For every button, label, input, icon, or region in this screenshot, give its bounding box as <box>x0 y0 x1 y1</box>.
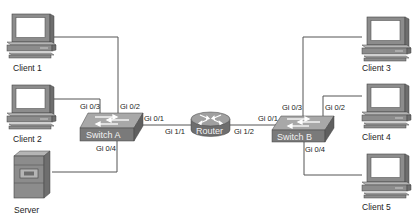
switchA-port-gi03: Gi 0/3 <box>80 102 100 111</box>
router-label: Router <box>196 126 223 136</box>
switchA-port-gi01: Gi 0/1 <box>144 114 164 123</box>
desktop-computer-icon <box>362 17 411 61</box>
client1-label: Client 1 <box>13 63 42 73</box>
switchB-node[interactable]: Switch B <box>272 116 334 142</box>
server-node[interactable]: Server <box>14 151 50 215</box>
client4-node[interactable]: Client 4 <box>362 84 411 142</box>
client5-node[interactable]: Client 5 <box>362 154 411 212</box>
server-tower-icon <box>14 151 50 198</box>
client3-label: Client 3 <box>362 63 391 73</box>
router-port-gi12: Gi 1/2 <box>234 127 254 136</box>
switchB-label: Switch B <box>277 132 312 142</box>
switchB-port-gi01: Gi 0/1 <box>258 114 278 123</box>
client1-node[interactable]: Client 1 <box>7 14 56 73</box>
client2-label: Client 2 <box>13 134 42 144</box>
switchA-label: Switch A <box>86 130 121 140</box>
server-label: Server <box>14 205 39 215</box>
switchB-port-gi02: Gi 0/2 <box>325 103 345 112</box>
switchA-node[interactable]: Switch A <box>80 113 143 141</box>
desktop-computer-icon <box>7 85 56 129</box>
desktop-computer-icon <box>362 84 411 128</box>
desktop-computer-icon <box>362 154 411 198</box>
network-diagram: Client 1 Client 2 Server <box>0 0 420 219</box>
desktop-computer-icon <box>7 14 56 58</box>
client3-node[interactable]: Client 3 <box>362 17 411 73</box>
switchB-port-gi03: Gi 0/3 <box>282 103 302 112</box>
switchA-port-gi04: Gi 0/4 <box>96 144 116 153</box>
switchB-port-gi04: Gi 0/4 <box>305 145 325 154</box>
client5-label: Client 5 <box>362 202 391 212</box>
client2-node[interactable]: Client 2 <box>7 85 56 144</box>
client4-label: Client 4 <box>362 132 391 142</box>
router-port-gi11: Gi 1/1 <box>165 127 185 136</box>
switchA-port-gi02: Gi 0/2 <box>120 102 140 111</box>
router-node[interactable]: Router <box>191 112 230 137</box>
